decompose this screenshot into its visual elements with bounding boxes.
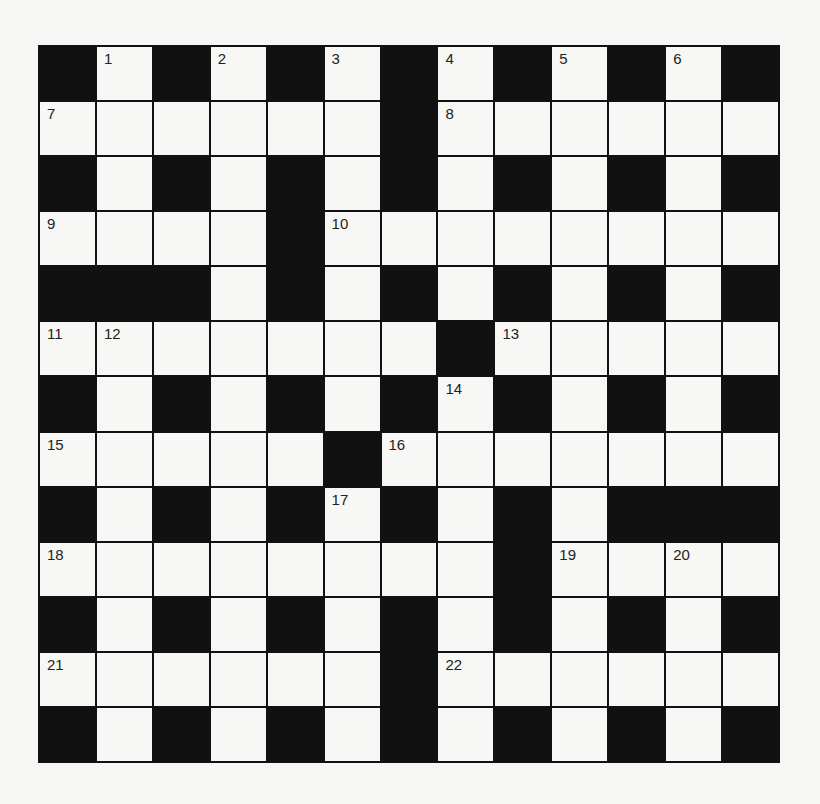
grid-cell[interactable] [325, 653, 380, 706]
grid-cell[interactable] [609, 433, 664, 486]
grid-cell[interactable]: 7 [40, 102, 95, 155]
grid-cell[interactable] [325, 102, 380, 155]
grid-cell[interactable]: 3 [325, 47, 380, 100]
grid-cell[interactable] [97, 708, 152, 761]
grid-cell[interactable] [325, 322, 380, 375]
grid-cell[interactable] [666, 102, 721, 155]
grid-cell[interactable] [97, 543, 152, 596]
grid-cell[interactable]: 19 [552, 543, 607, 596]
grid-cell[interactable] [609, 543, 664, 596]
grid-cell[interactable] [438, 267, 493, 320]
grid-cell[interactable]: 16 [382, 433, 437, 486]
grid-cell[interactable] [552, 102, 607, 155]
grid-cell[interactable] [382, 322, 437, 375]
grid-cell[interactable] [723, 653, 778, 706]
grid-cell[interactable] [211, 653, 266, 706]
grid-cell[interactable]: 18 [40, 543, 95, 596]
grid-cell[interactable]: 13 [495, 322, 550, 375]
grid-cell[interactable]: 12 [97, 322, 152, 375]
grid-cell[interactable]: 21 [40, 653, 95, 706]
grid-cell[interactable] [552, 377, 607, 430]
grid-cell[interactable] [154, 102, 209, 155]
grid-cell[interactable] [154, 322, 209, 375]
grid-cell[interactable] [609, 102, 664, 155]
grid-cell[interactable] [438, 543, 493, 596]
grid-cell[interactable]: 10 [325, 212, 380, 265]
grid-cell[interactable] [154, 653, 209, 706]
grid-cell[interactable] [438, 157, 493, 210]
grid-cell[interactable] [268, 433, 323, 486]
grid-cell[interactable] [495, 653, 550, 706]
grid-cell[interactable] [268, 322, 323, 375]
grid-cell[interactable] [211, 267, 266, 320]
grid-cell[interactable]: 14 [438, 377, 493, 430]
grid-cell[interactable] [154, 433, 209, 486]
grid-cell[interactable] [382, 212, 437, 265]
grid-cell[interactable]: 9 [40, 212, 95, 265]
grid-cell[interactable] [211, 543, 266, 596]
grid-cell[interactable]: 2 [211, 47, 266, 100]
grid-cell[interactable] [268, 653, 323, 706]
grid-cell[interactable] [495, 102, 550, 155]
grid-cell[interactable] [495, 212, 550, 265]
grid-cell[interactable] [666, 653, 721, 706]
grid-cell[interactable] [325, 377, 380, 430]
grid-cell[interactable] [552, 212, 607, 265]
grid-cell[interactable] [438, 433, 493, 486]
grid-cell[interactable]: 6 [666, 47, 721, 100]
grid-cell[interactable] [97, 433, 152, 486]
grid-cell[interactable] [552, 267, 607, 320]
grid-cell[interactable] [97, 598, 152, 651]
grid-cell[interactable] [609, 212, 664, 265]
grid-cell[interactable] [723, 322, 778, 375]
grid-cell[interactable] [268, 102, 323, 155]
grid-cell[interactable] [154, 543, 209, 596]
grid-cell[interactable] [211, 433, 266, 486]
grid-cell[interactable] [552, 433, 607, 486]
grid-cell[interactable] [552, 322, 607, 375]
grid-cell[interactable] [552, 653, 607, 706]
grid-cell[interactable] [97, 102, 152, 155]
grid-cell[interactable] [609, 653, 664, 706]
grid-cell[interactable] [723, 102, 778, 155]
grid-cell[interactable] [97, 653, 152, 706]
grid-cell[interactable] [211, 102, 266, 155]
grid-cell[interactable] [666, 708, 721, 761]
grid-cell[interactable] [666, 157, 721, 210]
grid-cell[interactable] [97, 488, 152, 541]
grid-cell[interactable] [97, 377, 152, 430]
grid-cell[interactable] [325, 543, 380, 596]
grid-cell[interactable]: 20 [666, 543, 721, 596]
grid-cell[interactable] [325, 708, 380, 761]
grid-cell[interactable] [154, 212, 209, 265]
grid-cell[interactable] [552, 598, 607, 651]
grid-cell[interactable] [666, 433, 721, 486]
grid-cell[interactable] [438, 488, 493, 541]
grid-cell[interactable] [325, 157, 380, 210]
grid-cell[interactable] [211, 488, 266, 541]
grid-cell[interactable] [325, 598, 380, 651]
grid-cell[interactable] [723, 543, 778, 596]
grid-cell[interactable] [211, 377, 266, 430]
grid-cell[interactable] [666, 267, 721, 320]
grid-cell[interactable] [609, 322, 664, 375]
grid-cell[interactable]: 17 [325, 488, 380, 541]
grid-cell[interactable] [438, 212, 493, 265]
grid-cell[interactable] [382, 543, 437, 596]
grid-cell[interactable] [438, 708, 493, 761]
grid-cell[interactable] [211, 157, 266, 210]
grid-cell[interactable] [211, 598, 266, 651]
grid-cell[interactable] [438, 598, 493, 651]
grid-cell[interactable]: 1 [97, 47, 152, 100]
grid-cell[interactable] [723, 433, 778, 486]
grid-cell[interactable] [97, 212, 152, 265]
grid-cell[interactable] [97, 157, 152, 210]
grid-cell[interactable]: 15 [40, 433, 95, 486]
grid-cell[interactable] [666, 377, 721, 430]
grid-cell[interactable] [211, 212, 266, 265]
grid-cell[interactable]: 5 [552, 47, 607, 100]
grid-cell[interactable] [666, 212, 721, 265]
grid-cell[interactable] [723, 212, 778, 265]
grid-cell[interactable] [666, 322, 721, 375]
grid-cell[interactable] [666, 598, 721, 651]
